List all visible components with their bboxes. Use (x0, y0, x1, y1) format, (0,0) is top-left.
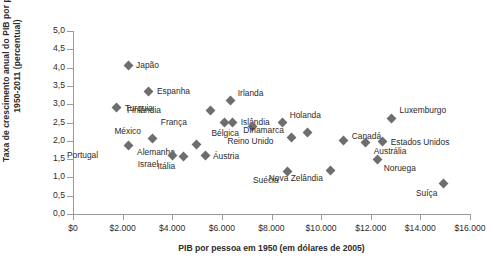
data-point-label: Finlândia (127, 105, 161, 115)
y-tick-label: 0,5 (37, 190, 65, 200)
x-tick (123, 214, 124, 220)
data-point-label: Holanda (290, 110, 321, 120)
data-point (192, 140, 202, 150)
data-point (123, 141, 133, 151)
y-tick (67, 141, 73, 142)
data-point-label: Reino Unido (227, 136, 273, 146)
x-axis-label: PIB por pessoa em 1950 (em dólares de 20… (73, 243, 470, 253)
y-tick (67, 104, 73, 105)
scatter-chart: Taxa de crescimento anual do PIB por pes… (0, 0, 493, 261)
data-point-label: Austrália (374, 146, 407, 156)
data-point-label: Dinamarca (243, 125, 284, 135)
data-point (339, 135, 349, 145)
y-tick-label: 2,0 (37, 135, 65, 145)
y-tick-label: 0,0 (37, 208, 65, 218)
y-tick (67, 86, 73, 87)
x-tick (371, 214, 372, 220)
y-tick-label: 1,0 (37, 171, 65, 181)
y-tick-label: 3,5 (37, 80, 65, 90)
x-tick (172, 214, 173, 220)
data-point (387, 113, 397, 123)
data-point-label: Nova Zelândia (269, 173, 323, 183)
data-point (200, 150, 210, 160)
x-tick-label: $16.000 (435, 223, 493, 233)
x-tick (73, 214, 74, 220)
data-point-label: França (161, 117, 187, 127)
data-point (438, 179, 448, 189)
y-tick-label: 4,0 (37, 62, 65, 72)
data-point-label: Israel (138, 159, 158, 169)
data-point-label: Japão (136, 60, 159, 70)
data-point (373, 155, 383, 165)
y-tick (67, 177, 73, 178)
data-point (148, 134, 158, 144)
x-tick (321, 214, 322, 220)
y-tick-label: 5,0 (37, 25, 65, 35)
data-point-label: Itália (157, 161, 175, 171)
data-point (112, 103, 122, 113)
y-axis-label: Taxa de crescimento anual do PIB por pes… (1, 0, 23, 166)
y-tick-label: 4,5 (37, 43, 65, 53)
data-point (303, 127, 313, 137)
y-axis-label-line2: 1950-2011 (percentual) (12, 0, 23, 166)
data-point (228, 117, 238, 127)
y-axis-label-line1: Taxa de crescimento anual do PIB por pes… (1, 0, 11, 162)
data-point-label: Áustria (213, 151, 239, 161)
y-tick (67, 196, 73, 197)
y-tick-label: 3,0 (37, 98, 65, 108)
x-tick (420, 214, 421, 220)
data-point (287, 133, 297, 143)
x-tick (470, 214, 471, 220)
data-point (178, 152, 188, 162)
y-axis-line (73, 31, 74, 215)
data-point-label: Luxemburgo (400, 105, 447, 115)
data-point (144, 86, 154, 96)
y-tick-label: 1,5 (37, 153, 65, 163)
data-point (326, 165, 336, 175)
y-tick-label: 2,5 (37, 117, 65, 127)
y-tick (67, 123, 73, 124)
data-point-label: Suíça (416, 188, 437, 198)
y-tick (67, 68, 73, 69)
data-point-label: Noruega (384, 163, 416, 173)
data-point-label: Irlanda (238, 88, 264, 98)
x-tick (272, 214, 273, 220)
data-point-label: México (114, 126, 141, 136)
data-point (206, 105, 216, 115)
y-tick (67, 31, 73, 32)
x-tick (222, 214, 223, 220)
data-point (123, 60, 133, 70)
data-point-label: Portugal (67, 150, 98, 160)
data-point (226, 96, 236, 106)
data-point-label: Espanha (157, 86, 190, 96)
y-tick (67, 49, 73, 50)
